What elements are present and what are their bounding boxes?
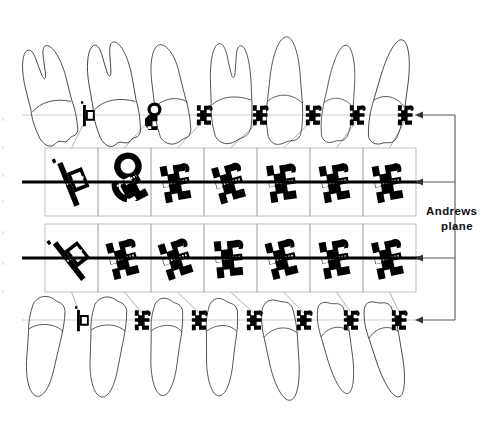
- bracket-on-tooth: [253, 105, 269, 125]
- bracket-on-tooth: [392, 310, 408, 330]
- bracket-on-tooth: [192, 310, 208, 330]
- bracket-on-tooth: [344, 310, 360, 330]
- figure-canvas: Andrews plane: [0, 0, 494, 432]
- bracket-on-tooth: [398, 105, 414, 125]
- bracket-on-tooth: [135, 310, 151, 330]
- bracket-on-tooth: [306, 105, 322, 125]
- bracket-on-tooth: [297, 310, 313, 330]
- andrews-plane-label-line1: Andrews: [426, 205, 477, 217]
- andrews-plane-label-line2: plane: [441, 220, 473, 232]
- bracket-on-tooth: [197, 105, 213, 125]
- bracket-on-tooth: [247, 310, 263, 330]
- bracket-on-tooth: [350, 105, 366, 125]
- andrews-plane-diagram: Andrews plane: [0, 0, 494, 432]
